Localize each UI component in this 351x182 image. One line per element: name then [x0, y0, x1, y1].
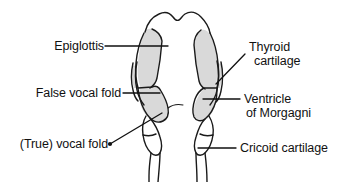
label-ventricle-line1: Ventricle [244, 92, 291, 107]
shaded-anatomy-group [132, 29, 221, 123]
label-false-vocal-fold: False vocal fold [0, 86, 121, 101]
right-trachea-outline [205, 153, 207, 182]
larynx-coronal-section-figure: Epiglottis False vocal fold (True) vocal… [0, 0, 351, 182]
label-thyroid-cartilage-line2: cartilage [254, 54, 300, 69]
left-cricoid-detail [143, 134, 156, 136]
label-cricoid-cartilage: Cricoid cartilage [240, 141, 328, 156]
left-trachea-outline [149, 153, 151, 182]
leader-dot-true-vocal-fold [108, 142, 112, 146]
leader-line-true-vocal-fold [110, 113, 162, 144]
right-shaded-mass [194, 30, 217, 88]
glottis-midline-hint [168, 105, 183, 108]
leader-lines-group [105, 46, 245, 148]
right-trachea-outline-inner [196, 153, 197, 182]
label-epiglottis: Epiglottis [0, 39, 104, 54]
label-true-vocal-fold: (True) vocal fold [0, 137, 108, 152]
right-cricoid-detail [200, 134, 213, 136]
label-ventricle-line2: of Morgagni [246, 106, 311, 121]
right-shaded-mass-lower [194, 88, 217, 121]
label-thyroid-cartilage-line1: Thyroid [249, 40, 290, 55]
left-trachea-outline-inner [158, 153, 160, 182]
